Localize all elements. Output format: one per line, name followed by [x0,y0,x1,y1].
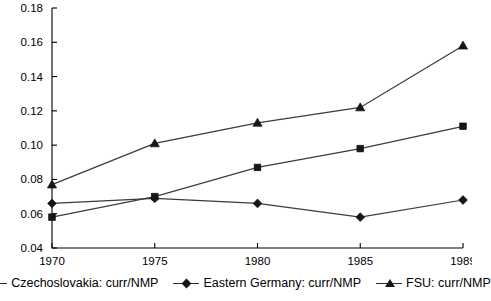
y-tick-label: 0.16 [21,36,43,48]
x-tick-label: 1980 [245,255,271,267]
diamond-marker-icon [173,278,199,289]
square-marker-icon [357,145,364,152]
y-tick-label: 0.04 [21,242,44,254]
x-tick-label: 1975 [142,255,168,267]
diamond-marker-icon [48,199,57,208]
y-tick-label: 0.14 [21,71,44,83]
legend-label-czechoslovakia: Czechoslovakia: curr/NMP [11,277,158,290]
x-tick-label: 1970 [39,255,65,267]
y-tick-label: 0.06 [21,208,43,220]
square-marker-icon [0,278,7,289]
legend-item-czechoslovakia[interactable]: Czechoslovakia: curr/NMP [0,277,158,290]
y-tick-label: 0.12 [21,105,43,117]
series-line-2 [52,46,463,185]
x-tick-label: 1985 [347,255,373,267]
chart-axes [52,8,463,248]
triangle-marker-icon [356,103,365,111]
square-marker-icon [49,214,56,221]
legend-label-fsu: FSU: curr/NMP [406,277,491,290]
diamond-marker-icon [356,213,365,222]
legend-label-eastern-germany: Eastern Germany: curr/NMP [203,277,361,290]
square-marker-icon [254,164,261,171]
legend-item-fsu[interactable]: FSU: curr/NMP [376,277,491,290]
x-tick-label: 1989 [450,255,472,267]
triangle-marker-icon [458,41,467,49]
square-marker-icon [460,123,467,130]
y-tick-label: 0.18 [21,2,43,14]
chart-legend: Czechoslovakia: curr/NMP Eastern Germany… [0,272,472,294]
diamond-marker-icon [459,196,468,205]
triangle-marker-icon [376,278,402,289]
y-tick-label: 0.10 [21,139,43,151]
diamond-marker-icon [253,199,262,208]
triangle-marker-icon [47,180,56,188]
y-tick-label: 0.08 [21,173,43,185]
legend-item-eastern-germany[interactable]: Eastern Germany: curr/NMP [173,277,361,290]
